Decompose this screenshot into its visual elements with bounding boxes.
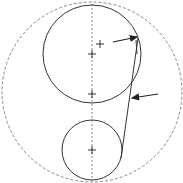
arrow-1 (132, 94, 158, 98)
arrow-0 (113, 37, 137, 42)
diagram-canvas (0, 0, 183, 183)
